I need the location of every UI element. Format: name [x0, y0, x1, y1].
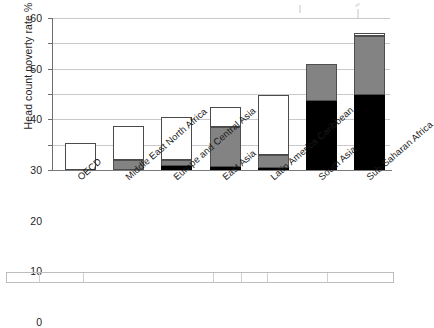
y-tick-mark: 30: [48, 94, 52, 95]
plot-area: 0102030405060: [52, 18, 390, 170]
bar-segment-white: [258, 95, 289, 156]
y-tick-mark: 20: [48, 119, 52, 120]
scan-artifact: [299, 5, 301, 13]
y-tick-label: 60: [30, 12, 42, 24]
bar-segment-white: [354, 33, 385, 35]
footer-cell: [83, 273, 214, 282]
gridline: [53, 18, 390, 19]
page-footer-strip: [6, 272, 394, 283]
scan-artifact: [355, 3, 360, 8]
y-tick-label: 20: [30, 215, 42, 227]
y-tick-mark: 40: [48, 69, 52, 70]
bar-segment-white: [113, 126, 144, 160]
bar-segment-gray: [354, 36, 385, 95]
y-tick-label: 30: [30, 164, 42, 176]
gridline: [53, 69, 390, 70]
gridline: [53, 43, 390, 44]
y-tick-label: 40: [30, 113, 42, 125]
y-tick-mark: 0: [48, 170, 52, 171]
gridline: [53, 94, 390, 95]
bar-segment-gray: [306, 64, 337, 100]
y-tick-label: 0: [36, 316, 42, 328]
footer-cell: [267, 273, 328, 282]
footer-cell: [39, 273, 84, 282]
scan-artifact: [357, 9, 359, 18]
y-tick-mark: 60: [48, 18, 52, 19]
footer-cell: [7, 273, 40, 282]
footer-cell: [213, 273, 242, 282]
bar-sub-saharan-africa: [354, 33, 385, 170]
footer-cell: [241, 273, 268, 282]
y-tick-label: 50: [30, 63, 42, 75]
y-tick-mark: 50: [48, 43, 52, 44]
y-tick-mark: 10: [48, 145, 52, 146]
